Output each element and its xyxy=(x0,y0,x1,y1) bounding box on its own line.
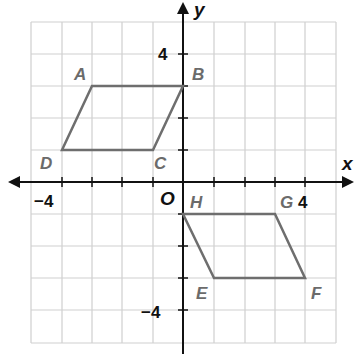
vertex-label-h: H xyxy=(190,193,203,212)
vertex-label-d: D xyxy=(40,154,52,173)
y-tick-4: 4 xyxy=(158,45,168,64)
vertex-label-a: A xyxy=(73,65,86,84)
vertex-label-f: F xyxy=(311,284,322,303)
vertex-label-g: G xyxy=(280,193,293,212)
x-axis-label: x xyxy=(341,153,354,174)
y-axis-arrow-icon xyxy=(177,2,189,14)
vertex-label-b: B xyxy=(192,65,204,84)
y-axis-label: y xyxy=(193,0,206,20)
y-tick-neg4: −4 xyxy=(141,303,161,322)
x-axis-left-arrow-icon xyxy=(8,176,20,188)
vertex-label-c: C xyxy=(154,154,167,173)
x-tick-4: 4 xyxy=(298,193,308,212)
coordinate-plane: y x O 4 −4 −4 4 A B C D H G F E xyxy=(0,0,356,354)
x-tick-neg4: −4 xyxy=(34,192,54,211)
vertex-label-e: E xyxy=(196,284,208,303)
origin-label: O xyxy=(160,188,175,209)
x-axis-right-arrow-icon xyxy=(342,176,354,188)
axes xyxy=(8,2,354,354)
